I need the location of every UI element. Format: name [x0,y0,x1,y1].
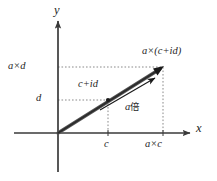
y-tick-label-a-times-d: a×d [8,61,26,72]
complex-plane-figure: y x a×d d c a×c a×(c+id) c+id a倍 [0,0,217,181]
scale-operation-suffix: 倍 [130,101,140,112]
source-point-marker [106,98,110,102]
x-tick-label-c: c [104,139,109,150]
scaled-vector [58,66,164,133]
x-axis-label: x [196,122,202,135]
x-tick-label-a-times-c: a×c [145,139,162,150]
scale-operation-label: a倍 [125,102,140,113]
y-axis-label: y [54,4,60,17]
y-tick-label-d: d [36,93,41,104]
source-point-label: c+id [78,79,98,90]
figure-canvas [0,0,217,181]
result-point-label: a×(c+id) [142,46,181,57]
